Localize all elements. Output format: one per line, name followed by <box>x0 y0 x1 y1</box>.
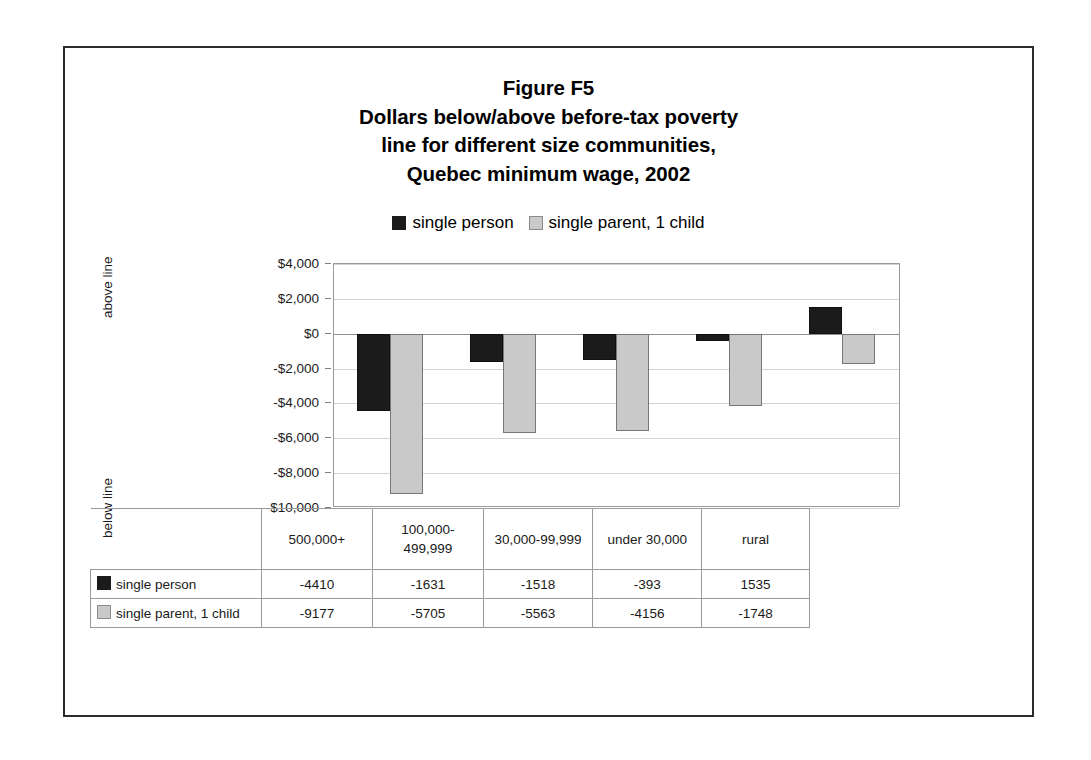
bar-group <box>447 264 560 506</box>
table-row-categories: 500,000+100,000-499,99930,000-99,999unde… <box>91 509 810 570</box>
table-cell: -5705 <box>373 599 484 628</box>
data-table: 500,000+100,000-499,99930,000-99,999unde… <box>90 508 810 628</box>
table-cell: -5563 <box>483 599 593 628</box>
bar-group <box>786 264 899 506</box>
bar-group <box>560 264 673 506</box>
chart-legend: single person single parent, 1 child <box>65 213 1032 233</box>
table-cell: -1748 <box>702 599 810 628</box>
legend-swatch-icon-single-parent <box>529 216 543 230</box>
figure-frame: Figure F5 Dollars below/above before-tax… <box>63 46 1034 717</box>
plot-area <box>333 263 900 507</box>
legend-swatch-icon-single-person <box>392 216 406 230</box>
axis-caption-above-line: above line <box>100 256 115 318</box>
bar <box>357 334 390 411</box>
table-cell: -1518 <box>483 570 593 599</box>
bar <box>470 334 503 362</box>
table-cell: -4410 <box>261 570 372 599</box>
y-axis-tick-mark <box>325 472 331 473</box>
table-cell: 1535 <box>702 570 810 599</box>
title-line-4: Quebec minimum wage, 2002 <box>65 160 1032 189</box>
y-axis-tick-mark <box>325 368 331 369</box>
bar <box>390 334 423 494</box>
y-axis-tick-mark <box>325 263 331 264</box>
bar <box>503 334 536 433</box>
table-cell: -4156 <box>593 599 702 628</box>
table-category-header: 100,000-499,999 <box>373 509 484 570</box>
y-axis-tick-label: $4,000 <box>278 256 319 271</box>
y-axis-tick-label: -$6,000 <box>273 430 319 445</box>
table-row: single person-4410-1631-1518-3931535 <box>91 570 810 599</box>
y-axis: $4,000$2,000$0-$2,000-$4,000-$6,000-$8,0… <box>255 263 325 507</box>
y-axis-tick-label: $2,000 <box>278 290 319 305</box>
chart-plot-wrapper: $4,000$2,000$0-$2,000-$4,000-$6,000-$8,0… <box>255 263 1010 513</box>
y-axis-tick-mark <box>325 298 331 299</box>
table-cell: -1631 <box>373 570 484 599</box>
table-cell: -393 <box>593 570 702 599</box>
table-category-header: rural <box>702 509 810 570</box>
table-swatch-icon-single-parent <box>97 605 111 619</box>
bar-group <box>673 264 786 506</box>
bars-layer <box>334 264 899 506</box>
y-axis-tick-label: -$8,000 <box>273 465 319 480</box>
y-axis-tick-label: $0 <box>304 325 319 340</box>
table-corner-cell <box>91 509 262 570</box>
bar <box>842 334 875 364</box>
y-axis-tick-mark <box>325 333 331 334</box>
figure-title: Figure F5 Dollars below/above before-tax… <box>65 74 1032 188</box>
table-row: single parent, 1 child-9177-5705-5563-41… <box>91 599 810 628</box>
bar <box>809 307 842 334</box>
table-cell: -9177 <box>261 599 372 628</box>
title-line-1: Figure F5 <box>65 74 1032 103</box>
table-category-header: 500,000+ <box>261 509 372 570</box>
table-category-header: 30,000-99,999 <box>483 509 593 570</box>
table-swatch-icon-single-person <box>97 576 111 590</box>
legend-label-single-person: single person <box>412 213 513 233</box>
legend-label-single-parent: single parent, 1 child <box>549 213 705 233</box>
title-line-3: line for different size communities, <box>65 131 1032 160</box>
table-series-label: single person <box>91 570 262 599</box>
bar <box>616 334 649 431</box>
y-axis-tick-mark <box>325 437 331 438</box>
title-line-2: Dollars below/above before-tax poverty <box>65 103 1032 132</box>
legend-entry-single-person: single person <box>392 213 513 233</box>
y-axis-tick-mark <box>325 402 331 403</box>
bar <box>729 334 762 406</box>
y-axis-tick-label: -$4,000 <box>273 395 319 410</box>
bar-group <box>334 264 447 506</box>
legend-entry-single-parent: single parent, 1 child <box>529 213 705 233</box>
table-category-header: under 30,000 <box>593 509 702 570</box>
y-axis-tick-label: -$2,000 <box>273 360 319 375</box>
table-series-label: single parent, 1 child <box>91 599 262 628</box>
bar <box>583 334 616 360</box>
bar <box>696 334 729 341</box>
